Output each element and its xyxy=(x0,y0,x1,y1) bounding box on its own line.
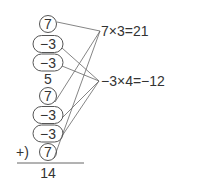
addition-diagram: 7 −3 −3 5 7 −3 −3 7 +) 14 7×3=21 −3×4=−1… xyxy=(0,0,199,181)
term-value: −3 xyxy=(40,55,56,71)
total: 14 xyxy=(40,165,56,181)
plus-sign: +) xyxy=(16,144,29,160)
term-value: −3 xyxy=(40,107,56,123)
term-value: 7 xyxy=(44,16,52,32)
term-value: 7 xyxy=(44,88,52,104)
connector-lines xyxy=(54,22,100,158)
term-value: 7 xyxy=(44,144,52,160)
term-values: 7 −3 −3 5 7 −3 −3 7 xyxy=(40,16,56,160)
equation-minus-three: −3×4=−12 xyxy=(101,73,165,89)
equation-seven: 7×3=21 xyxy=(101,23,149,39)
term-value: −3 xyxy=(40,36,56,52)
term-value: −3 xyxy=(40,126,56,142)
term-value: 5 xyxy=(44,71,52,87)
